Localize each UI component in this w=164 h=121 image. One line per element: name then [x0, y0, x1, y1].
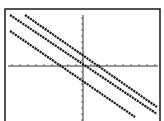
line-lower: [10, 31, 135, 117]
axes: [8, 15, 158, 121]
line-upper: [25, 15, 157, 107]
line-graph: [0, 0, 164, 121]
graph-screen: [0, 0, 164, 121]
